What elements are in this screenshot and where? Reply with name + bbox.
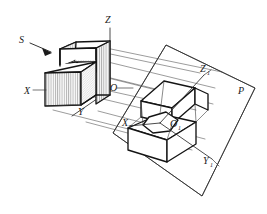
axonometric-projection-figure: S Z X Y O Z 1 X 1 Y 1 O 1 P (0, 0, 267, 214)
label-axis-x: X (23, 85, 31, 96)
label-axis-y1-sub: 1 (210, 162, 213, 168)
label-projection-direction: S (19, 34, 24, 45)
label-axis-z1-sub: 1 (207, 70, 210, 76)
label-plane-P: P (237, 85, 244, 96)
stepped-L-block (45, 41, 110, 106)
diagram-canvas: S Z X Y O Z 1 X 1 Y 1 O 1 P (0, 0, 267, 214)
label-axis-z: Z (105, 14, 111, 25)
label-origin1-sub: 1 (178, 125, 181, 131)
label-axis-y1-left-sub: 1 (129, 124, 132, 130)
label-axis-z1-letter: Z (200, 63, 206, 74)
label-axis-y1-left-letter: X (121, 117, 129, 128)
label-origin1-letter: O (170, 118, 177, 129)
projection-direction-arrow (30, 43, 52, 56)
label-origin: O (110, 82, 117, 93)
